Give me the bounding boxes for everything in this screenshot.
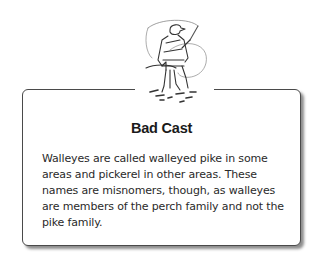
sidebar-body-text: Walleyes are called walleyed pike in som… — [42, 151, 292, 231]
fisherman-casting-icon — [140, 18, 220, 110]
sidebar-title: Bad Cast — [22, 120, 301, 136]
